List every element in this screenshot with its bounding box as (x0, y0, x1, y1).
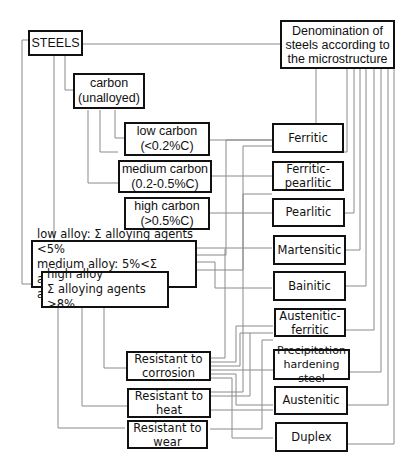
microstructure-ferritic-box: Ferritic (272, 123, 344, 153)
carbon-unalloyed-box: carbon (unalloyed) (73, 73, 145, 109)
microstructure-ferritic-pearlitic-box: Ferritic- pearlitic (272, 161, 344, 191)
resistant-heat-box: Resistant to heat (127, 388, 211, 418)
microstructure-martensitic-box: Martensitic (273, 235, 346, 265)
microstructure-austenitic-box: Austenitic (274, 386, 348, 415)
steels-root-box: STEELS (28, 30, 83, 56)
high-alloy-box: high alloy Σ alloying agents >8% (41, 271, 169, 308)
low-carbon-box: low carbon (<0.2%C) (124, 122, 210, 156)
microstructure-pearlitic-box: Pearlitic (272, 198, 345, 227)
microstructure-duplex-box: Duplex (275, 422, 348, 452)
microstructure-bainitic-box: Bainitic (273, 271, 346, 301)
medium-carbon-box: medium carbon (0.2-0.5%C) (118, 160, 212, 193)
resistant-corrosion-box: Resistant to corrosion (126, 351, 211, 381)
microstructure-austenitic-ferritic-box: Austenitic- ferritic (274, 308, 346, 337)
high-carbon-box: high carbon (>0.5%C) (124, 197, 210, 230)
resistant-wear-box: Resistant to wear (127, 420, 208, 449)
microstructure-header-box: Denomination of steels according to the … (280, 20, 395, 69)
microstructure-precipitation-hardening-box: Precipitation hardening steel (273, 349, 350, 380)
